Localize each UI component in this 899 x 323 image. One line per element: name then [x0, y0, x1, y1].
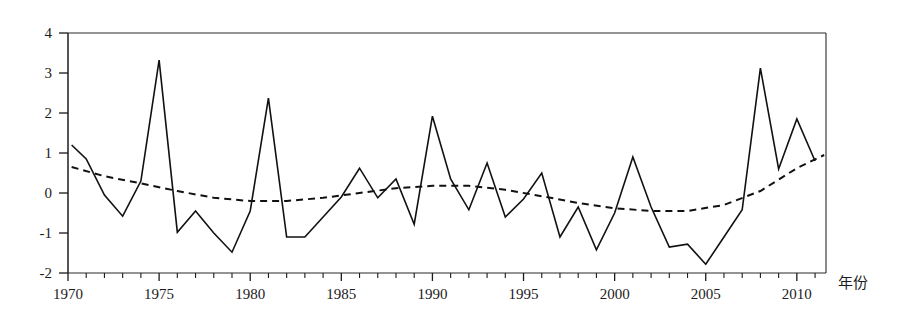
x-tick-label: 1980	[235, 286, 265, 302]
y-tick-label: 1	[45, 145, 53, 161]
smoothed-trend	[72, 155, 825, 211]
y-tick-label: 0	[45, 185, 53, 201]
annual-series	[72, 60, 815, 264]
x-tick-label: 1985	[326, 286, 356, 302]
x-tick-label: 1970	[53, 286, 83, 302]
x-tick-label: 2005	[691, 286, 721, 302]
x-axis-tick-labels: 197019751980198519901995200020052010	[53, 286, 812, 302]
x-axis-ticks	[68, 273, 815, 281]
x-tick-label: 1995	[509, 286, 539, 302]
plot-frame	[68, 33, 826, 273]
line-chart: 43210-1-2 197019751980198519901995200020…	[0, 0, 899, 323]
y-tick-label: -1	[40, 225, 53, 241]
y-tick-label: 3	[45, 65, 53, 81]
y-tick-label: 4	[45, 25, 53, 41]
y-axis-ticks	[59, 33, 68, 273]
y-tick-label: -2	[40, 265, 53, 281]
x-axis-title: 年份	[838, 275, 868, 291]
y-tick-label: 2	[45, 105, 53, 121]
x-tick-label: 2010	[782, 286, 812, 302]
chart-container: 43210-1-2 197019751980198519901995200020…	[0, 0, 899, 323]
x-tick-label: 1990	[417, 286, 447, 302]
x-tick-label: 1975	[144, 286, 174, 302]
y-axis-tick-labels: 43210-1-2	[40, 25, 53, 281]
data-series-group	[72, 60, 825, 264]
x-tick-label: 2000	[600, 286, 630, 302]
